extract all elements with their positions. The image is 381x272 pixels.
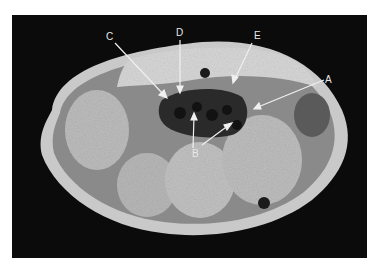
vessel bbox=[258, 197, 270, 209]
mri-image: C D E A B bbox=[12, 15, 367, 258]
hypothenar-muscle bbox=[294, 93, 330, 137]
tendon bbox=[206, 109, 218, 121]
label-a: A bbox=[325, 75, 332, 85]
vessel bbox=[200, 68, 210, 78]
label-e: E bbox=[254, 31, 261, 41]
mri-drawing bbox=[12, 15, 367, 258]
bone-trapezium bbox=[65, 90, 129, 170]
label-d: D bbox=[176, 28, 183, 38]
label-b: B bbox=[192, 149, 199, 159]
tendon bbox=[192, 102, 202, 112]
tendon bbox=[174, 107, 186, 119]
tendon bbox=[232, 120, 242, 130]
label-c: C bbox=[106, 32, 113, 42]
tendon bbox=[222, 105, 232, 115]
